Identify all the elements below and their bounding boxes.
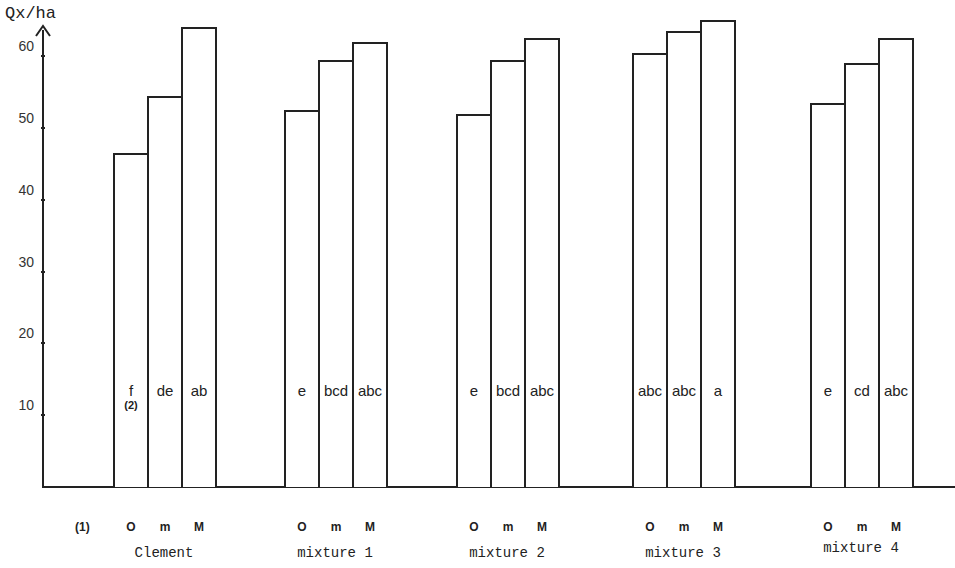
y-tick-label: 10 — [4, 397, 34, 413]
bar-chart: Qx/ha 102030405060 f(2)deabebcdabcebcdab… — [0, 0, 955, 568]
y-tick-label: 50 — [4, 110, 34, 126]
significance-letters: abc — [526, 382, 558, 399]
bar-mixture-1-O: e — [284, 110, 320, 487]
x-group-label: mixture 1 — [265, 545, 405, 561]
y-axis-label: Qx/ha — [5, 4, 56, 23]
significance-letters: abc — [880, 382, 912, 399]
x-subcategory-label: M — [360, 520, 380, 534]
bar-mixture-4-O: e — [810, 103, 846, 487]
x-subcategory-label: m — [498, 520, 518, 534]
y-tick-mark — [41, 55, 45, 57]
x-subcategory-label: M — [532, 520, 552, 534]
significance-letters: cd — [846, 382, 878, 399]
bar-mixture-3-M: a — [700, 20, 736, 487]
x-group-label: Clement — [94, 545, 234, 561]
significance-letters: bcd — [492, 382, 524, 399]
significance-letters: abc — [634, 382, 666, 399]
x-subcategory-label: O — [292, 520, 312, 534]
bar-mixture-3-O: abc — [632, 53, 668, 487]
y-tick-label: 20 — [4, 325, 34, 341]
y-tick-mark — [41, 414, 45, 416]
footnote-2-marker: (2) — [115, 399, 147, 411]
significance-letters: a — [702, 382, 734, 399]
bar-mixture-4-M: abc — [878, 38, 914, 487]
significance-letters: f — [115, 382, 147, 399]
y-tick-label: 40 — [4, 182, 34, 198]
significance-letters: abc — [668, 382, 700, 399]
significance-letters: e — [458, 382, 490, 399]
bar-clement-O: f(2) — [113, 153, 149, 487]
x-subcategory-label: M — [708, 520, 728, 534]
significance-letters: e — [812, 382, 844, 399]
y-tick-mark — [41, 127, 45, 129]
significance-letters: de — [149, 382, 181, 399]
x-subcategory-label: m — [155, 520, 175, 534]
x-group-label: mixture 4 — [791, 540, 931, 556]
significance-letters: ab — [183, 382, 215, 399]
bar-clement-M: ab — [181, 27, 217, 487]
bar-mixture-1-m: bcd — [318, 60, 354, 487]
x-subcategory-label: m — [326, 520, 346, 534]
x-subcategory-label: m — [674, 520, 694, 534]
bar-mixture-2-m: bcd — [490, 60, 526, 487]
bar-mixture-2-M: abc — [524, 38, 560, 487]
bar-clement-m: de — [147, 96, 183, 487]
y-tick-mark — [41, 199, 45, 201]
x-subcategory-label: O — [818, 520, 838, 534]
x-subcategory-label: M — [886, 520, 906, 534]
y-tick-mark — [41, 342, 45, 344]
bar-mixture-3-m: abc — [666, 31, 702, 487]
y-tick-label: 60 — [4, 38, 34, 54]
y-tick-mark — [41, 271, 45, 273]
y-tick-label: 30 — [4, 254, 34, 270]
x-subcategory-label: M — [189, 520, 209, 534]
bar-mixture-2-O: e — [456, 114, 492, 487]
x-group-label: mixture 3 — [613, 545, 753, 561]
x-group-label: mixture 2 — [437, 545, 577, 561]
x-subcategory-label: O — [464, 520, 484, 534]
y-axis-line — [42, 30, 44, 488]
x-subcategory-label: m — [852, 520, 872, 534]
x-subcategory-label: O — [121, 520, 141, 534]
significance-letters: abc — [354, 382, 386, 399]
bar-mixture-4-m: cd — [844, 63, 880, 487]
bar-mixture-1-M: abc — [352, 42, 388, 487]
significance-letters: bcd — [320, 382, 352, 399]
significance-letters: e — [286, 382, 318, 399]
x-subcategory-label: O — [640, 520, 660, 534]
footnote-1-marker: (1) — [75, 520, 90, 534]
